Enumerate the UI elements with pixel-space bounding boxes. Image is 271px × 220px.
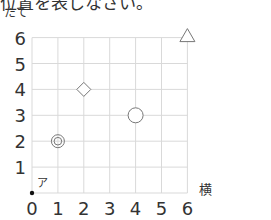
x-tick-label: 5 [156, 198, 167, 219]
y-tick-label: 2 [15, 131, 26, 152]
coordinate-grid: 0123456123456たて横ア [0, 0, 271, 220]
y-tick-label: 1 [15, 157, 26, 178]
y-tick-label: 4 [15, 79, 26, 100]
triangle-marker [180, 29, 195, 42]
y-axis-title: たて [4, 6, 28, 20]
diamond-marker [77, 82, 91, 96]
y-tick-label: 3 [15, 105, 26, 126]
x-tick-label: 4 [130, 198, 141, 219]
x-tick-label: 3 [104, 198, 115, 219]
origin-dot-marker [30, 191, 34, 195]
x-axis-title: 横 [199, 182, 212, 197]
y-tick-label: 6 [15, 28, 26, 49]
x-tick-label: 6 [182, 198, 193, 219]
circle-marker [128, 108, 143, 123]
point-label-a: ア [37, 177, 48, 190]
x-tick-label: 1 [52, 198, 63, 219]
x-tick-label: 2 [78, 198, 89, 219]
y-tick-label: 5 [15, 54, 26, 75]
x-tick-label: 0 [26, 198, 37, 219]
